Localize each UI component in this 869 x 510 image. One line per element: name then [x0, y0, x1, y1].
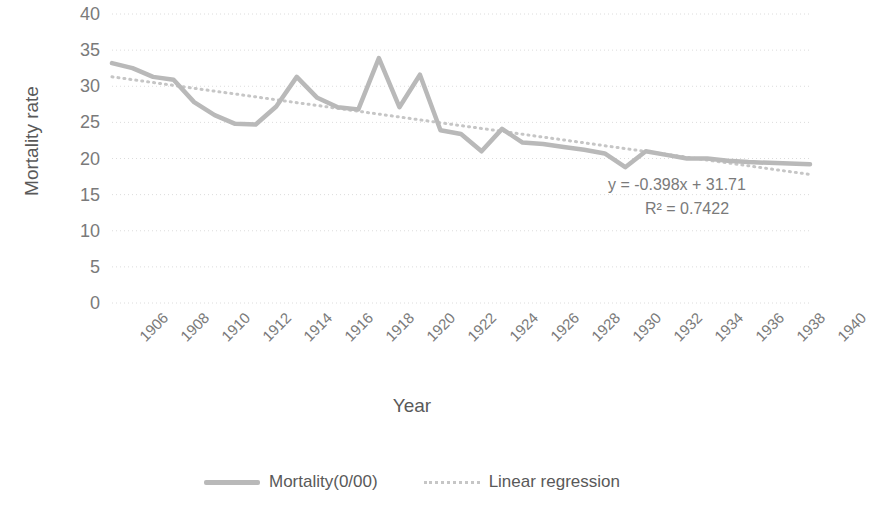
x-tick-label: 1936	[752, 309, 788, 345]
x-axis-tick-labels: 1906190819101912191419161918192019221924…	[112, 303, 810, 373]
x-tick-label: 1924	[505, 309, 541, 345]
x-tick-label: 1908	[177, 309, 213, 345]
legend-item-label: Mortality(0/00)	[269, 472, 378, 492]
chart-svg	[112, 14, 810, 303]
x-tick-label: 1926	[546, 309, 582, 345]
y-tick-label: 40	[40, 4, 100, 25]
x-tick-label: 1932	[670, 309, 706, 345]
x-tick-label: 1914	[300, 309, 336, 345]
r-squared-annotation: R² = 0.7422	[645, 200, 729, 218]
x-tick-label: 1918	[382, 309, 418, 345]
regression-equation-annotation: y = -0.398x + 31.71	[608, 176, 746, 194]
x-tick-label: 1928	[587, 309, 623, 345]
x-tick-label: 1922	[464, 309, 500, 345]
y-axis-tick-labels: 0510152025303540	[38, 0, 100, 510]
x-tick-label: 1938	[793, 309, 829, 345]
x-tick-label: 1934	[711, 309, 747, 345]
legend-solid-line-icon	[204, 480, 260, 485]
mortality-data-line	[112, 58, 810, 167]
y-tick-label: 5	[40, 256, 100, 277]
legend-item[interactable]: Linear regression	[424, 472, 620, 492]
x-tick-label: 1930	[628, 309, 664, 345]
x-tick-label: 1910	[218, 309, 254, 345]
x-tick-label: 1912	[259, 309, 295, 345]
legend-item[interactable]: Mortality(0/00)	[204, 472, 378, 492]
x-tick-label: 1916	[341, 309, 377, 345]
y-tick-label: 10	[40, 220, 100, 241]
x-axis-title: Year	[0, 395, 824, 417]
y-tick-label: 20	[40, 148, 100, 169]
y-tick-label: 30	[40, 76, 100, 97]
legend-item-label: Linear regression	[489, 472, 620, 492]
y-tick-label: 35	[40, 40, 100, 61]
chart-legend: Mortality(0/00)Linear regression	[0, 472, 824, 492]
x-tick-label: 1920	[423, 309, 459, 345]
y-tick-label: 0	[40, 293, 100, 314]
legend-dotted-line-icon	[424, 481, 480, 484]
y-tick-label: 25	[40, 112, 100, 133]
x-tick-label: 1906	[136, 309, 172, 345]
y-tick-label: 15	[40, 184, 100, 205]
plot-area	[112, 14, 810, 303]
x-tick-label: 1940	[834, 309, 869, 345]
